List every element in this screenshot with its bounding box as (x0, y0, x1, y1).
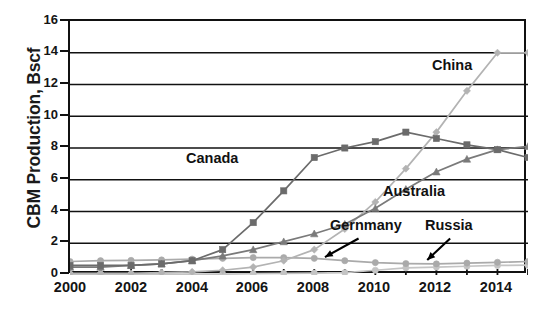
y-tick-16: 16 (30, 13, 58, 26)
x-tick-2004: 2004 (162, 280, 222, 295)
series-layer (70, 49, 528, 275)
gridlines (70, 53, 528, 244)
series-label-china: China (432, 58, 472, 73)
series-label-canada: Canada (186, 151, 238, 166)
y-tick-10: 10 (30, 108, 58, 121)
russia-annotation-arrow (427, 238, 450, 259)
annotation-arrows (325, 238, 450, 259)
x-tick-2008: 2008 (283, 280, 343, 295)
germany-annotation-arrow (325, 238, 359, 257)
y-tick-0: 0 (30, 266, 58, 279)
series-label-germany: Gernmany (330, 218, 402, 233)
y-tick-12: 12 (30, 76, 58, 89)
y-tick-6: 6 (30, 171, 58, 184)
x-tick-2000: 2000 (40, 280, 100, 295)
x-tick-2012: 2012 (405, 280, 465, 295)
series-canada (70, 129, 528, 269)
series-label-russia: Russia (425, 218, 473, 233)
x-tick-2006: 2006 (222, 280, 282, 295)
x-tick-2010: 2010 (344, 280, 404, 295)
series-australia (70, 143, 528, 270)
y-axis-tick-labels: 16 14 12 10 8 6 4 2 0 (0, 0, 66, 311)
y-tick-8: 8 (30, 139, 58, 152)
chart-figure: CBM Production, Bscf 16 14 12 10 8 6 4 2… (0, 0, 539, 311)
y-tick-14: 14 (30, 44, 58, 57)
x-tick-2002: 2002 (101, 280, 161, 295)
y-tick-2: 2 (30, 234, 58, 247)
x-tick-2014: 2014 (466, 280, 526, 295)
y-tick-4: 4 (30, 203, 58, 216)
series-label-australia: Australia (383, 184, 445, 199)
